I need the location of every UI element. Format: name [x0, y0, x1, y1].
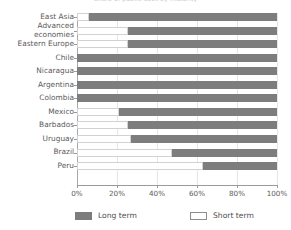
plot-area: [77, 13, 277, 185]
legend-label: Long term: [98, 211, 137, 220]
bar-segment-long-term[interactable]: [131, 135, 277, 143]
x-axis-tick-label: 20%: [97, 189, 137, 198]
x-axis-tick: [197, 185, 198, 188]
bar-segment-short-term[interactable]: [77, 13, 89, 21]
legend-item[interactable]: Long term: [75, 209, 137, 222]
y-axis-tick: [74, 17, 77, 18]
y-axis-tick: [74, 71, 77, 72]
x-axis-tick: [237, 185, 238, 188]
bar-segment-long-term[interactable]: [77, 81, 277, 89]
stacked-bar-chart: Share of public debt by maturity East As…: [0, 0, 291, 230]
bar-row[interactable]: [77, 149, 277, 157]
x-axis-line: [77, 185, 278, 186]
y-axis-tick: [74, 139, 77, 140]
x-axis-tick-label: 40%: [137, 189, 177, 198]
y-axis-label: Barbados: [3, 121, 77, 129]
bar-segment-long-term[interactable]: [119, 108, 277, 116]
bar-row[interactable]: [77, 27, 277, 35]
y-axis-tick: [74, 85, 77, 86]
y-axis-label: Uruguay: [3, 135, 77, 143]
bar-segment-long-term[interactable]: [172, 149, 277, 157]
y-axis-tick: [74, 98, 77, 99]
x-axis-tick-label: 0%: [57, 189, 97, 198]
x-axis-tick-label: 60%: [177, 189, 217, 198]
x-axis-tick: [77, 185, 78, 188]
x-axis-tick-label: 80%: [217, 189, 257, 198]
y-axis-label: Advanced economies: [3, 22, 77, 38]
bar-row[interactable]: [77, 121, 277, 129]
bar-row[interactable]: [77, 135, 277, 143]
bar-segment-short-term[interactable]: [77, 108, 119, 116]
bar-row[interactable]: [77, 108, 277, 116]
bar-segment-long-term[interactable]: [128, 40, 277, 48]
y-axis-tick: [74, 112, 77, 113]
x-axis-tick-label: 100%: [257, 189, 291, 198]
bar-row[interactable]: [77, 54, 277, 62]
bar-segment-long-term[interactable]: [128, 27, 277, 35]
bar-segment-long-term[interactable]: [77, 67, 277, 75]
bar-segment-short-term[interactable]: [77, 149, 172, 157]
y-axis-label: East Asia: [3, 13, 77, 21]
legend-swatch-long-term: [75, 212, 92, 220]
y-axis-label: Brazil: [3, 148, 77, 156]
bar-segment-long-term[interactable]: [89, 13, 277, 21]
legend-swatch-short-term: [190, 212, 207, 220]
y-axis-tick: [74, 58, 77, 59]
chart-title: Share of public debt by maturity: [0, 0, 291, 2]
legend-item[interactable]: Short term: [190, 209, 254, 222]
y-axis-label: Argentina: [3, 81, 77, 89]
bar-segment-short-term[interactable]: [77, 27, 128, 35]
legend-label: Short term: [213, 211, 254, 220]
bar-segment-short-term[interactable]: [77, 135, 131, 143]
bar-row[interactable]: [77, 162, 277, 170]
y-axis-tick: [74, 31, 77, 32]
bar-segment-short-term[interactable]: [77, 40, 128, 48]
bar-segment-long-term[interactable]: [203, 162, 277, 170]
gridline-100pct: [277, 13, 278, 185]
bar-row[interactable]: [77, 81, 277, 89]
bar-row[interactable]: [77, 13, 277, 21]
bar-segment-long-term[interactable]: [128, 121, 277, 129]
y-axis-label: Chile: [3, 54, 77, 62]
y-axis-label: Mexico: [3, 108, 77, 116]
y-axis-tick: [74, 166, 77, 167]
bar-row[interactable]: [77, 94, 277, 102]
x-axis-tick: [277, 185, 278, 188]
y-axis-tick: [74, 153, 77, 154]
y-axis-tick: [74, 125, 77, 126]
y-axis-tick: [74, 44, 77, 45]
bar-segment-long-term[interactable]: [77, 54, 277, 62]
x-axis-tick: [117, 185, 118, 188]
y-axis-label: Peru: [3, 162, 77, 170]
bar-row[interactable]: [77, 40, 277, 48]
x-axis-tick: [157, 185, 158, 188]
bar-segment-long-term[interactable]: [77, 94, 277, 102]
chart-legend: Long termShort term: [0, 209, 291, 225]
bar-segment-short-term[interactable]: [77, 121, 128, 129]
y-axis-label: Colombia: [3, 94, 77, 102]
bar-row[interactable]: [77, 67, 277, 75]
bar-segment-short-term[interactable]: [77, 162, 203, 170]
y-axis-label: Eastern Europe: [3, 40, 77, 48]
y-axis-label: Nicaragua: [3, 67, 77, 75]
